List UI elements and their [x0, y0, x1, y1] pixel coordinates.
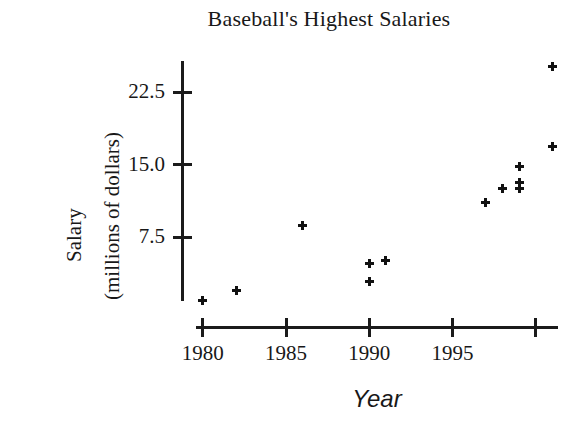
- x-axis-label: Year: [196, 385, 558, 413]
- x-tick-label: 1985: [251, 341, 321, 366]
- data-point-marker: [232, 286, 241, 295]
- x-tick-label: 1995: [418, 341, 488, 366]
- data-point-marker: [548, 62, 557, 71]
- data-point-marker: [481, 198, 490, 207]
- data-point-marker: [298, 221, 307, 230]
- x-axis-line: [196, 326, 558, 329]
- x-tick-label: 1980: [168, 341, 238, 366]
- y-tick: [173, 163, 192, 166]
- y-tick-label: 7.5: [95, 224, 165, 249]
- data-point-marker: [365, 259, 374, 268]
- data-point-marker: [498, 184, 507, 193]
- data-point-marker: [365, 277, 374, 286]
- data-point-marker: [515, 184, 524, 193]
- y-tick-label: 22.5: [95, 79, 165, 104]
- x-tick: [534, 318, 537, 337]
- x-tick: [368, 318, 371, 337]
- data-point-marker: [548, 142, 557, 151]
- y-tick: [173, 91, 192, 94]
- plot-area: 7.515.022.5 1980198519901995: [0, 0, 588, 430]
- x-tick: [451, 318, 454, 337]
- data-point-marker: [198, 296, 207, 305]
- x-tick: [285, 318, 288, 337]
- x-tick-label: 1990: [334, 341, 404, 366]
- x-tick: [201, 318, 204, 337]
- y-tick: [173, 236, 192, 239]
- data-point-marker: [381, 256, 390, 265]
- data-point-marker: [515, 162, 524, 171]
- chart-figure: Baseball's Highest Salaries Salary (mill…: [0, 0, 588, 430]
- y-tick-label: 15.0: [95, 152, 165, 177]
- y-axis-line: [181, 61, 184, 301]
